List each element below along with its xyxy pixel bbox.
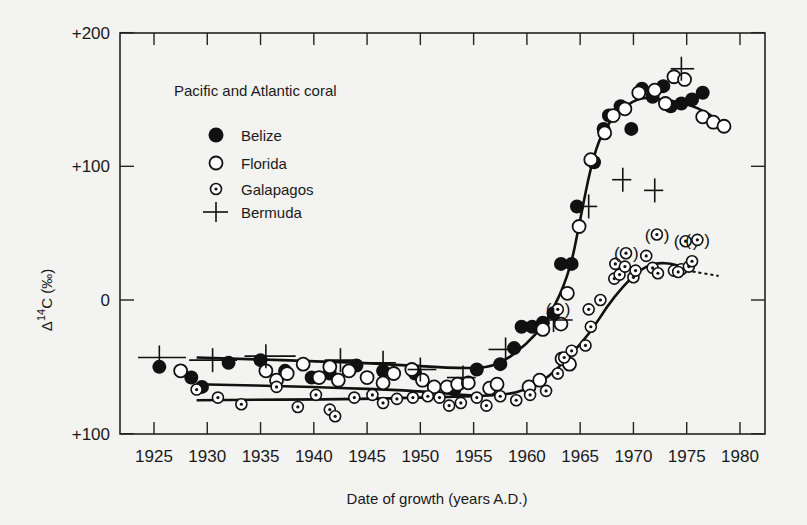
- florida-point: [361, 371, 374, 384]
- galapagos-point: [585, 321, 596, 332]
- galapagos-point: [310, 389, 321, 400]
- series-bermuda: [138, 57, 694, 390]
- x-tick-label: 1970: [615, 447, 653, 466]
- svg-text:): ): [704, 231, 710, 250]
- galapagos-point: [330, 411, 341, 422]
- svg-text:(: (: [546, 300, 552, 319]
- florida-point: [281, 367, 294, 380]
- galapagos-point: [580, 340, 591, 351]
- galapagos-point: [471, 392, 482, 403]
- svg-text:(: (: [685, 231, 691, 250]
- superscript-14: 14: [35, 309, 47, 321]
- galapagos-point: [481, 400, 492, 411]
- galapagos-point: [566, 345, 577, 356]
- x-tick-label: 1965: [561, 447, 599, 466]
- svg-text:): ): [633, 244, 639, 263]
- galapagos-point: [583, 304, 594, 315]
- x-tick-label: 1930: [188, 447, 226, 466]
- y-tick-label: 0: [101, 291, 110, 310]
- belize-point: [222, 356, 236, 370]
- florida-point: [323, 360, 336, 373]
- x-tick-label: 1955: [455, 447, 493, 466]
- svg-text:(: (: [645, 226, 651, 245]
- florida-point: [387, 367, 400, 380]
- svg-text:(: (: [674, 232, 680, 251]
- x-tick-label: 1940: [295, 447, 333, 466]
- x-tick-label: 1945: [348, 447, 386, 466]
- galapagos-bracketed-point: (): [645, 226, 670, 245]
- galapagos-point: [630, 265, 641, 276]
- x-tick-label: 1950: [401, 447, 439, 466]
- galapagos-point: [619, 261, 630, 272]
- delta-symbol: Δ: [38, 321, 55, 331]
- florida-point: [332, 374, 345, 387]
- galapagos-point: [525, 389, 536, 400]
- galapagos-point: [511, 395, 522, 406]
- bermuda-point: [580, 194, 597, 218]
- florida-point: [416, 374, 429, 387]
- legend-label-belize: Belize: [241, 127, 282, 144]
- chart: 1925193019351940194519501955196019651970…: [0, 0, 807, 525]
- galapagos-point: [191, 384, 202, 395]
- y-tick-label: +100: [72, 425, 110, 444]
- florida-point: [174, 364, 187, 377]
- florida-point: [561, 287, 574, 300]
- florida-point: [573, 220, 586, 233]
- florida-point: [536, 323, 549, 336]
- galapagos-point: [673, 266, 684, 277]
- x-tick-label: 1960: [508, 447, 546, 466]
- florida-point: [632, 86, 645, 99]
- belize-point: [507, 341, 521, 355]
- galapagos-point: [444, 400, 455, 411]
- x-tick-label: 1935: [242, 447, 280, 466]
- legend-title: Pacific and Atlantic coral: [174, 82, 337, 99]
- legend-label-bermuda: Bermuda: [241, 204, 303, 221]
- y-axis-unit: C (‰): [38, 269, 55, 309]
- bermuda-point: [644, 178, 663, 202]
- legend-bermuda-marker-icon: [203, 202, 228, 222]
- x-tick-label: 1980: [721, 447, 759, 466]
- galapagos-point: [687, 256, 698, 267]
- florida-point: [491, 378, 504, 391]
- legend-label-galapagos: Galapagos: [241, 181, 314, 198]
- legend-belize-marker-icon: [209, 128, 224, 143]
- galapagos-point: [349, 392, 360, 403]
- legend-label-florida: Florida: [241, 155, 288, 172]
- galapagos-point: [652, 268, 663, 279]
- galapagos-point: [367, 389, 378, 400]
- svg-text:): ): [565, 300, 571, 319]
- svg-text:): ): [664, 226, 670, 245]
- legend: Pacific and Atlantic coral Belize Florid…: [174, 82, 337, 222]
- legend-florida-marker-icon: [210, 157, 223, 170]
- galapagos-bracketed-point: (): [614, 244, 639, 263]
- legend-galapagos-marker-icon: [211, 184, 222, 195]
- bermuda-point: [612, 168, 631, 192]
- florida-point: [717, 120, 730, 133]
- galapagos-point: [541, 385, 552, 396]
- galapagos-point: [378, 397, 389, 408]
- x-tick-label: 1975: [668, 447, 706, 466]
- svg-text:(: (: [614, 244, 620, 263]
- series-belize: [152, 79, 709, 396]
- galapagos-point: [434, 392, 445, 403]
- galapagos-point: [407, 392, 418, 403]
- belize-point: [470, 363, 484, 377]
- florida-point: [607, 109, 620, 122]
- y-tick-label: +100: [72, 157, 110, 176]
- florida-point: [618, 102, 631, 115]
- x-tick-label: 1925: [135, 447, 173, 466]
- florida-point: [297, 358, 310, 371]
- galapagos-point: [595, 295, 606, 306]
- y-axis-title: Δ14C (‰): [35, 269, 55, 331]
- florida-point: [584, 153, 597, 166]
- galapagos-point: [552, 368, 563, 379]
- x-axis-title: Date of growth (years A.D.): [347, 490, 528, 507]
- galapagos-point: [391, 393, 402, 404]
- florida-point: [598, 126, 611, 139]
- florida-point: [313, 371, 326, 384]
- galapagos-point: [495, 391, 506, 402]
- galapagos-point: [212, 392, 223, 403]
- galapagos-point: [292, 401, 303, 412]
- belize-point: [696, 86, 710, 100]
- florida-point: [533, 374, 546, 387]
